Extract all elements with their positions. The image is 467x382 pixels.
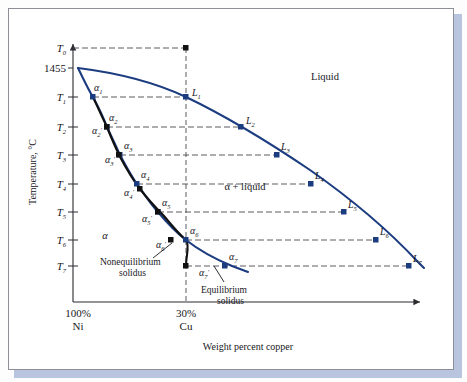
- label-alpha7: α7: [229, 251, 238, 264]
- annotation-nonequilibrium-solidus: Nonequilibrium solidus: [100, 257, 163, 278]
- point-L3: [274, 152, 280, 158]
- point-alpha3-prime: [116, 152, 122, 158]
- label-alpha5-prime: α5′: [142, 213, 153, 226]
- y-tick-T5: T5: [57, 206, 67, 220]
- region-label-liquid: Liquid: [311, 71, 340, 82]
- point-alpha1: [90, 94, 96, 100]
- label-alpha1: α1: [94, 82, 103, 95]
- point-T0-alloy: [183, 45, 189, 51]
- y-tick-T0: T0: [57, 42, 67, 56]
- label-alpha6: α6: [190, 225, 199, 238]
- label-alpha5: α5: [162, 197, 171, 210]
- label-L1: L1: [191, 87, 201, 100]
- point-alpha6-prime: [168, 237, 174, 243]
- x-tick-30pct: 30%: [176, 307, 196, 319]
- label-L7: L7: [412, 253, 423, 266]
- label-L4: L4: [314, 170, 325, 183]
- point-alpha4-prime: [137, 186, 143, 192]
- point-alpha6: [183, 237, 189, 243]
- y-tick-T7: T7: [57, 260, 67, 274]
- label-alpha2-prime: α2′: [92, 125, 103, 138]
- y-tick-T2: T2: [57, 121, 67, 135]
- x-tick-cu: Cu: [180, 320, 193, 332]
- label-alpha4: α4: [141, 169, 150, 182]
- point-alpha2-prime: [104, 124, 110, 130]
- x-tick-ni: Ni: [73, 320, 84, 332]
- y-tick-T6: T6: [57, 234, 67, 248]
- label-L2: L2: [245, 115, 256, 128]
- label-alpha3-prime: α3′: [105, 154, 116, 167]
- y-tick-T4: T4: [57, 178, 67, 192]
- label-alpha4-prime: α4′: [124, 187, 135, 200]
- point-L6: [373, 237, 379, 243]
- y-tick-labels: T0 1455 T1 T2 T3 T4 T5 T6 T7: [44, 42, 67, 274]
- annotation-equilibrium-solidus: Equilibrium solidus: [201, 285, 249, 306]
- x-tick-100pct: 100%: [65, 307, 91, 319]
- point-L5: [341, 209, 347, 215]
- x-axis-title: Weight percent copper: [203, 341, 294, 352]
- region-label-alpha: α: [102, 230, 108, 241]
- point-alpha7: [222, 263, 228, 269]
- liquidus-curve: [78, 68, 424, 268]
- liquidus-point-labels: L1 L2 L3 L4 L5 L6 L7: [191, 87, 423, 266]
- label-L6: L6: [379, 226, 390, 239]
- point-alpha4: [134, 181, 140, 187]
- label-L5: L5: [347, 199, 358, 212]
- label-alpha7-prime: α7′: [199, 267, 210, 280]
- point-L7: [406, 263, 412, 269]
- y-tick-1455: 1455: [44, 62, 67, 74]
- point-alpha5-prime: [155, 209, 161, 215]
- x-tick-labels: 100% Ni 30% Cu: [65, 307, 196, 332]
- point-alpha7-prime: [183, 263, 189, 269]
- region-label-alpha-plus-liquid: α + liquid: [224, 181, 266, 192]
- y-axis-title: Temperature, °C: [27, 139, 38, 205]
- label-alpha3: α3: [124, 140, 133, 153]
- point-L4: [308, 181, 314, 187]
- equilibrium-solidus-curve: [78, 68, 248, 272]
- tie-lines: [73, 48, 409, 266]
- figure-page: T0 1455 T1 T2 T3 T4 T5 T6 T7: [0, 0, 467, 382]
- y-tick-T3: T3: [57, 149, 67, 163]
- liquidus-points: [183, 45, 412, 269]
- label-alpha6-prime: α6′: [156, 239, 167, 252]
- phase-diagram-plot: T0 1455 T1 T2 T3 T4 T5 T6 T7: [0, 0, 467, 382]
- label-alpha2: α2: [109, 112, 118, 125]
- equilibrium-solidus-point-labels: α1 α2 α3 α4 α5 α6 α7: [94, 82, 238, 264]
- point-L1: [183, 94, 189, 100]
- point-L2: [238, 124, 244, 130]
- y-tick-T1: T1: [57, 91, 66, 105]
